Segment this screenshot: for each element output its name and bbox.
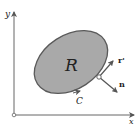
origin-marker	[12, 113, 16, 117]
curve-c: C	[73, 91, 83, 106]
region-r: R	[23, 18, 120, 107]
normal-vector-arrow	[99, 77, 117, 92]
green-theorem-diagram: y x R C r' n	[0, 0, 139, 125]
tangent-vector-label: r'	[118, 55, 125, 65]
boundary-point	[97, 75, 101, 79]
curve-label: C	[76, 96, 83, 106]
x-axis-label: x	[129, 117, 134, 125]
region-label: R	[64, 55, 78, 75]
normal-vector-label: n	[119, 79, 125, 89]
y-axis-label: y	[4, 9, 11, 19]
curve-direction-arrow-icon	[73, 91, 80, 93]
